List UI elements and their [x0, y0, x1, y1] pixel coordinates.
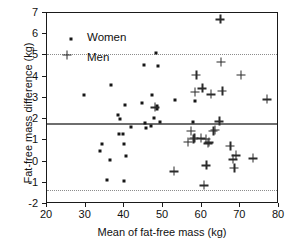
data-point-men — [206, 90, 215, 99]
data-point-women — [123, 103, 126, 106]
data-point-men — [217, 57, 226, 66]
y-tick-label-7: 7 — [32, 6, 38, 18]
data-point-men — [231, 151, 240, 160]
data-point-women — [117, 113, 120, 116]
data-point-men — [210, 125, 219, 134]
data-point-women — [144, 127, 147, 130]
data-point-women — [119, 118, 122, 121]
data-point-men — [216, 15, 225, 24]
lower-limit-of-agreement-line — [47, 190, 277, 191]
data-point-women — [174, 99, 177, 102]
data-point-men — [263, 95, 272, 104]
data-point-women — [143, 64, 146, 67]
upper-limit-of-agreement-line — [47, 54, 277, 55]
y-tick-2 — [42, 118, 46, 119]
data-point-men — [230, 163, 239, 172]
data-point-men — [150, 103, 159, 112]
y-tick--1 — [42, 182, 46, 183]
legend-marker-men-plus — [63, 51, 72, 60]
x-tick-20 — [46, 203, 47, 207]
data-point-women — [122, 179, 125, 182]
data-point-men — [169, 167, 178, 176]
x-tick-70 — [239, 203, 240, 207]
x-tick-label-60: 60 — [195, 208, 207, 220]
data-point-women — [158, 120, 161, 123]
mean-difference-line — [47, 123, 277, 125]
x-tick-label-20: 20 — [40, 208, 52, 220]
legend-label-men: Men — [87, 51, 109, 63]
legend-marker-women-dot — [70, 38, 73, 41]
x-tick-label-40: 40 — [117, 208, 129, 220]
x-tick-80 — [278, 203, 279, 207]
data-point-men — [202, 161, 211, 170]
data-point-women — [124, 155, 127, 158]
data-point-men — [199, 181, 208, 190]
y-tick-7 — [42, 12, 46, 13]
y-tick-3 — [42, 97, 46, 98]
data-point-women — [192, 121, 195, 124]
data-point-women — [156, 65, 159, 68]
y-tick-1 — [42, 139, 46, 140]
data-point-men — [226, 141, 235, 150]
data-point-women — [153, 116, 156, 119]
data-point-women — [129, 125, 132, 128]
data-point-men — [215, 117, 224, 126]
plot-area: Women Men — [46, 12, 278, 203]
data-point-women — [82, 94, 85, 97]
legend-label-women: Women — [87, 31, 126, 43]
x-tick-label-30: 30 — [79, 208, 91, 220]
y-axis-label: Fat-free mass difference (kg) — [22, 23, 34, 203]
data-point-men — [205, 138, 214, 147]
y-tick-4 — [42, 76, 46, 77]
x-tick-label-80: 80 — [272, 208, 284, 220]
x-tick-40 — [123, 203, 124, 207]
data-point-women — [154, 52, 157, 55]
x-tick-60 — [201, 203, 202, 207]
data-point-men — [218, 86, 227, 95]
data-point-women — [122, 133, 125, 136]
data-point-women — [123, 142, 126, 145]
data-point-women — [151, 94, 154, 97]
data-point-women — [100, 142, 103, 145]
data-point-women — [117, 132, 120, 135]
data-point-women — [149, 125, 152, 128]
data-point-men — [236, 70, 245, 79]
data-point-men — [248, 154, 257, 163]
data-point-women — [106, 179, 109, 182]
data-point-women — [144, 121, 147, 124]
y-tick-6 — [42, 33, 46, 34]
y-tick-5 — [42, 54, 46, 55]
data-point-men — [192, 70, 201, 79]
data-point-women — [109, 159, 112, 162]
y-tick--2 — [42, 203, 46, 204]
bland-altman-chart: Women Men 20304050607080 -2-101234567 Me… — [0, 0, 292, 252]
x-tick-label-50: 50 — [156, 208, 168, 220]
data-point-women — [98, 149, 101, 152]
data-point-women — [193, 100, 196, 103]
x-axis-label: Mean of fat-free mass (kg) — [46, 226, 278, 238]
data-point-women — [110, 83, 113, 86]
y-tick-0 — [42, 161, 46, 162]
data-point-women — [141, 101, 144, 104]
x-tick-label-70: 70 — [233, 208, 245, 220]
x-tick-50 — [162, 203, 163, 207]
x-tick-30 — [85, 203, 86, 207]
